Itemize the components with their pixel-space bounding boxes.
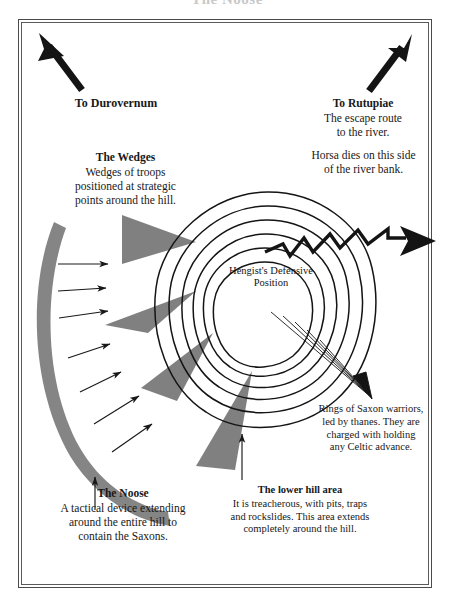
label-the-noose: The Noose A tactical device extending ar…	[28, 486, 218, 543]
troop-wedges	[105, 215, 252, 470]
rutupiae-line-1: The escape route	[288, 111, 438, 125]
ring-3	[193, 234, 337, 388]
noose-crescent	[37, 222, 170, 526]
rings-line-3: charged with holding	[298, 429, 444, 442]
wedges-line-3: points around the hill.	[38, 193, 213, 207]
pressure-arrow-2	[58, 288, 106, 291]
center-line-2: Defensive	[270, 265, 313, 276]
label-the-wedges: The Wedges Wedges of troops positioned a…	[38, 150, 213, 207]
road-arrow-durovernum	[38, 33, 82, 90]
label-to-durovernum: To Durovernum	[36, 96, 196, 112]
center-line-3: Position	[254, 277, 288, 288]
noose-heading: The Noose	[28, 486, 218, 500]
noose-line-2: around the entire hill to	[28, 515, 218, 529]
rings-line-4: any Celtic advance.	[298, 441, 444, 454]
leader-line-2	[283, 316, 372, 398]
pressure-arrow-3	[59, 311, 108, 318]
leader-line-1	[271, 312, 372, 398]
leader-arrowhead	[353, 372, 372, 399]
ring-leader-lines	[271, 312, 372, 399]
rutupiae-line-2: to the river.	[288, 125, 438, 139]
road-arrow-rutupiae	[369, 34, 412, 91]
pressure-arrow-4	[68, 344, 110, 358]
ring-6	[155, 192, 376, 427]
label-to-rutupiae: To Rutupiae The escape route to the rive…	[288, 96, 438, 139]
escape-arrowhead	[400, 226, 436, 256]
rutupiae-heading: To Rutupiae	[288, 96, 438, 110]
lower-hill-line-2: and rockslides. This area extends	[204, 511, 396, 524]
lower-hill-heading: The lower hill area	[204, 484, 396, 497]
wedges-line-2: positioned at strategic	[38, 179, 213, 193]
noose-line-3: contain the Saxons.	[28, 529, 218, 543]
wedges-heading: The Wedges	[38, 150, 213, 164]
horsa-line-1: Horsa dies on this side	[286, 148, 441, 162]
wedges-line-1: Wedges of troops	[38, 165, 213, 179]
saxon-warrior-rings	[155, 192, 376, 427]
center-line-1: Hengist's	[229, 265, 268, 276]
label-hengists-defensive-position: Hengist's Defensive Position	[229, 265, 313, 290]
lower-hill-line-1: It is treacherous, with pits, traps	[204, 498, 396, 511]
durovernum-heading: To Durovernum	[36, 96, 196, 111]
label-lower-hill-area: The lower hill area It is treacherous, w…	[204, 484, 396, 536]
rings-line-1: Rings of Saxon warriors,	[298, 403, 444, 416]
wedge-1	[122, 215, 196, 264]
pressure-arrow-7	[112, 424, 152, 452]
label-horsa-death: Horsa dies on this side of the river ban…	[286, 148, 441, 176]
horsa-line-2: of the river bank.	[286, 162, 441, 176]
label-rings-of-saxon-warriors: Rings of Saxon warriors, led by thanes. …	[298, 403, 444, 454]
noose-pressure-arrows	[58, 264, 152, 452]
noose-line-1: A tactical device extending	[28, 501, 218, 515]
pressure-arrow-6	[94, 396, 139, 424]
pressure-arrow-5	[80, 372, 121, 392]
lower-hill-line-3: completely around the hill.	[204, 523, 396, 536]
rings-line-2: led by thanes. They are	[298, 416, 444, 429]
